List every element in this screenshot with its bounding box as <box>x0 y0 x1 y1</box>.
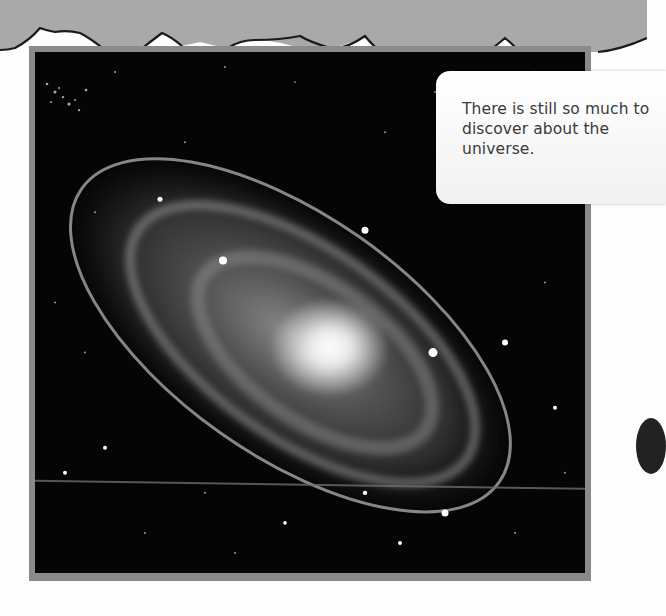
caption-callout: There is still so much to discover about… <box>436 71 666 204</box>
page-edge-graphic <box>636 418 666 474</box>
caption-text: There is still so much to discover about… <box>462 99 662 159</box>
